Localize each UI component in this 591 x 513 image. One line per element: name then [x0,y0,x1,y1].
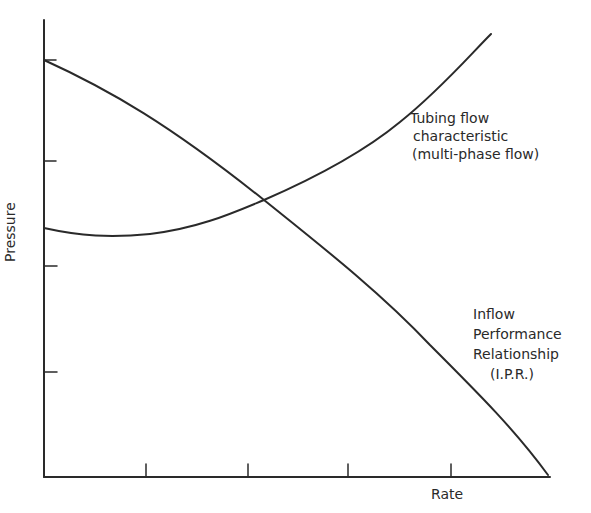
y-ticks [44,60,57,372]
chart-canvas [0,0,591,513]
x-ticks [146,464,451,477]
x-axis-label: Rate [431,486,463,503]
y-axis-label: Pressure [2,202,18,262]
